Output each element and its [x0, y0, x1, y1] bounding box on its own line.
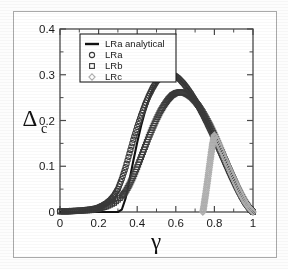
x-tick-label: 0.4	[129, 217, 146, 229]
y-axis-title-subscript: c	[41, 121, 47, 136]
x-tick-label: 0.8	[206, 217, 222, 229]
x-tick-label: 0	[57, 217, 63, 229]
series-lra	[57, 71, 255, 214]
x-axis-tick-labels: 00.20.40.60.81	[57, 217, 256, 229]
figure-root: 00.20.40.60.81 00.10.20.30.4 γ Δ c LRa a…	[0, 0, 288, 269]
data-series-layer	[57, 71, 256, 215]
y-axis-title: Δ	[23, 106, 38, 131]
legend-label: LRb	[105, 60, 122, 71]
chart-plot: 00.20.40.60.81 00.10.20.30.4 γ Δ c LRa a…	[0, 0, 288, 269]
y-tick-label: 0.1	[39, 160, 55, 172]
legend-label: LRc	[105, 71, 122, 82]
x-axis-title: γ	[150, 229, 161, 254]
y-tick-label: 0.3	[39, 69, 55, 81]
chart-legend: LRa analyticalLRaLRbLRc	[80, 34, 176, 82]
legend-label: LRa	[105, 49, 123, 60]
legend-label: LRa analytical	[105, 38, 165, 49]
x-tick-label: 0.6	[168, 217, 184, 229]
y-tick-label: 0.4	[39, 23, 56, 35]
y-tick-label: 0	[49, 206, 55, 218]
x-tick-label: 0.2	[91, 217, 107, 229]
series-lra-analytical	[60, 74, 253, 212]
x-tick-label: 1	[250, 217, 256, 229]
